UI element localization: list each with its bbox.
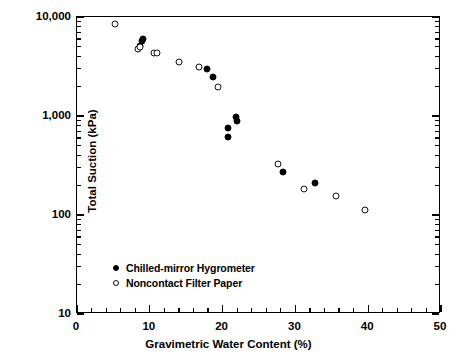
- y-axis-minor-tick: [77, 32, 81, 33]
- x-axis-minor-tick: [164, 308, 165, 312]
- x-axis-major-tick: [76, 305, 77, 312]
- open-circle-icon: [113, 280, 119, 286]
- y-axis-minor-tick: [77, 21, 81, 22]
- scatter-chart-figure: Chilled-mirror Hygrometer Noncontact Fil…: [0, 0, 457, 360]
- x-axis-minor-tick: [280, 308, 281, 312]
- x-axis-minor-tick: [324, 308, 325, 312]
- data-point: [362, 207, 369, 214]
- y-axis-minor-tick: [77, 266, 81, 267]
- data-point: [225, 133, 232, 140]
- x-axis-tick-label: 10: [142, 320, 155, 332]
- y-axis-minor-tick: [435, 120, 439, 121]
- y-axis-minor-tick: [435, 236, 439, 237]
- data-point: [333, 193, 340, 200]
- x-axis-major-tick: [368, 305, 369, 312]
- y-axis-minor-tick: [435, 137, 439, 138]
- data-point: [140, 35, 147, 42]
- data-point: [204, 65, 211, 72]
- data-point: [312, 180, 319, 187]
- x-axis-minor-tick: [426, 308, 427, 312]
- y-axis-minor-tick: [77, 284, 81, 285]
- y-axis-minor-tick: [77, 137, 81, 138]
- x-axis-major-tick: [149, 305, 150, 312]
- x-axis-minor-tick: [237, 308, 238, 312]
- y-axis-minor-tick: [77, 167, 81, 168]
- x-axis-minor-tick: [397, 308, 398, 312]
- y-axis-minor-tick: [77, 38, 81, 39]
- x-axis-title: Gravimetric Water Content (%): [0, 338, 457, 350]
- y-axis-minor-tick: [77, 56, 81, 57]
- y-axis-minor-tick: [77, 224, 81, 225]
- filled-circle-icon: [113, 265, 119, 271]
- plot-area: Chilled-mirror Hygrometer Noncontact Fil…: [76, 16, 440, 313]
- y-axis-minor-tick: [435, 224, 439, 225]
- legend-label: Chilled-mirror Hygrometer: [126, 262, 255, 274]
- x-axis-minor-tick: [338, 308, 339, 312]
- y-axis-minor-tick: [435, 125, 439, 126]
- y-axis-minor-tick: [435, 155, 439, 156]
- y-axis-major-tick: [432, 313, 439, 314]
- x-axis-major-tick: [295, 305, 296, 312]
- data-point: [195, 63, 202, 70]
- y-axis-minor-tick: [435, 56, 439, 57]
- y-axis-minor-tick: [435, 219, 439, 220]
- y-axis-major-tick: [77, 313, 84, 314]
- data-point: [224, 124, 231, 131]
- y-axis-minor-tick: [77, 219, 81, 220]
- x-axis-minor-tick: [135, 308, 136, 312]
- y-axis-minor-tick: [77, 26, 81, 27]
- y-axis-tick-label: 100: [52, 208, 71, 220]
- y-axis-tick-label: 1,000: [42, 109, 71, 121]
- y-axis-minor-tick: [435, 38, 439, 39]
- y-axis-minor-tick: [77, 46, 81, 47]
- x-axis-minor-tick: [120, 308, 121, 312]
- data-point: [154, 50, 161, 57]
- y-axis-major-tick: [77, 214, 84, 215]
- y-axis-minor-tick: [435, 46, 439, 47]
- y-axis-minor-tick: [435, 244, 439, 245]
- x-axis-tick-label: 0: [73, 320, 79, 332]
- y-axis-minor-tick: [77, 185, 81, 186]
- x-axis-major-tick: [440, 305, 441, 312]
- legend-item-chilled-mirror-hygrometer: Chilled-mirror Hygrometer: [113, 260, 255, 275]
- y-axis-minor-tick: [435, 32, 439, 33]
- chart-legend: Chilled-mirror Hygrometer Noncontact Fil…: [113, 260, 255, 290]
- x-axis-tick-label: 30: [288, 320, 301, 332]
- x-axis-minor-tick: [266, 308, 267, 312]
- y-axis-minor-tick: [77, 236, 81, 237]
- y-axis-minor-tick: [435, 284, 439, 285]
- y-axis-minor-tick: [435, 145, 439, 146]
- y-axis-minor-tick: [77, 230, 81, 231]
- y-axis-major-tick: [77, 115, 84, 116]
- y-axis-minor-tick: [77, 244, 81, 245]
- x-axis-tick-label: 40: [361, 320, 374, 332]
- x-axis-minor-tick: [193, 308, 194, 312]
- y-axis-minor-tick: [435, 26, 439, 27]
- y-axis-minor-tick: [435, 86, 439, 87]
- data-point: [301, 185, 308, 192]
- y-axis-tick-label: 10: [58, 307, 71, 319]
- x-axis-minor-tick: [207, 308, 208, 312]
- y-axis-minor-tick: [435, 254, 439, 255]
- y-axis-minor-tick: [435, 185, 439, 186]
- y-axis-minor-tick: [435, 68, 439, 69]
- x-axis-major-tick: [222, 305, 223, 312]
- data-point: [280, 169, 287, 176]
- data-point: [175, 59, 182, 66]
- x-axis-minor-tick: [106, 308, 107, 312]
- y-axis-minor-tick: [435, 230, 439, 231]
- y-axis-minor-tick: [77, 155, 81, 156]
- y-axis-minor-tick: [77, 131, 81, 132]
- x-axis-minor-tick: [91, 308, 92, 312]
- y-axis-minor-tick: [77, 120, 81, 121]
- y-axis-major-tick: [432, 214, 439, 215]
- x-axis-minor-tick: [251, 308, 252, 312]
- x-axis-tick-label: 20: [215, 320, 228, 332]
- data-point: [234, 118, 241, 125]
- legend-label: Noncontact Filter Paper: [126, 277, 242, 289]
- y-axis-minor-tick: [435, 167, 439, 168]
- y-axis-major-tick: [77, 16, 84, 17]
- y-axis-minor-tick: [77, 86, 81, 87]
- x-axis-minor-tick: [382, 308, 383, 312]
- y-axis-tick-label: 10,000: [36, 10, 71, 22]
